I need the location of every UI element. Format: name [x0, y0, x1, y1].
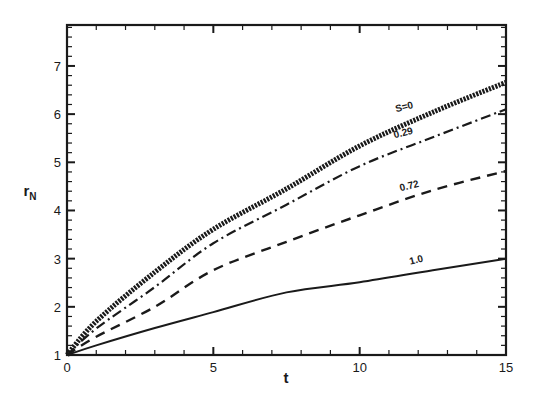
curve-0-72 — [67, 171, 506, 355]
curves — [67, 82, 506, 355]
x-tick-label: 0 — [63, 360, 70, 375]
curve-label: S=0 — [394, 99, 415, 114]
y-tick-label: 7 — [54, 59, 61, 74]
curve-S-0 — [67, 82, 506, 355]
x-tick-label: 15 — [499, 360, 513, 375]
line-chart: 051015 1234567 S=00.290.721.0 t rN — [0, 0, 536, 405]
y-axis-title-subscript: N — [29, 191, 36, 202]
y-tick-label: 2 — [54, 300, 61, 315]
curve-1-0 — [67, 259, 506, 355]
x-tick-label: 5 — [210, 360, 217, 375]
curve-label: 0.72 — [398, 178, 420, 193]
y-tick-label: 6 — [54, 107, 61, 122]
y-tick-label: 5 — [54, 155, 61, 170]
y-tick-label: 4 — [54, 203, 61, 218]
curve-label: 1.0 — [408, 252, 425, 266]
x-axis-title: t — [284, 369, 289, 386]
y-tick-label: 1 — [54, 348, 61, 363]
y-tick-labels: 1234567 — [54, 59, 61, 363]
x-tick-label: 10 — [352, 360, 366, 375]
y-axis-title: rN — [23, 182, 36, 202]
y-tick-label: 3 — [54, 252, 61, 267]
